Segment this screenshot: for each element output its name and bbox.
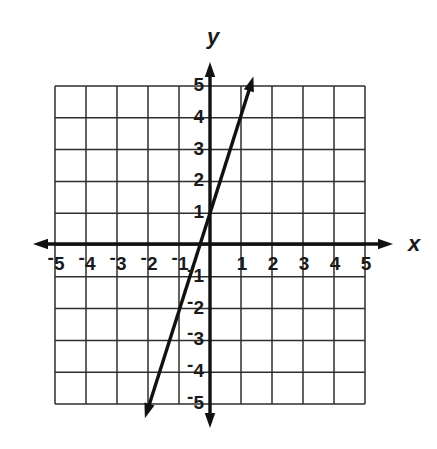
x-tick-label: 1 bbox=[237, 253, 248, 274]
y-tick-label: -2 bbox=[187, 291, 204, 318]
x-tick-label: -4 bbox=[79, 247, 96, 274]
x-tick-label: 2 bbox=[268, 253, 279, 274]
x-axis-arrowhead bbox=[33, 239, 48, 250]
plotted-line-arrowhead bbox=[244, 76, 254, 92]
y-tick-label: -5 bbox=[187, 386, 204, 413]
y-axis-arrowhead bbox=[205, 62, 216, 77]
x-tick-label: -5 bbox=[48, 247, 65, 274]
y-tick-label: 2 bbox=[193, 169, 204, 190]
x-tick-label: 5 bbox=[361, 253, 372, 274]
plotted-line-arrowhead bbox=[144, 402, 154, 418]
x-axis-label: x bbox=[407, 231, 421, 256]
x-tick-label: 4 bbox=[330, 253, 341, 274]
y-tick-label: -4 bbox=[187, 354, 204, 381]
y-axis-label: y bbox=[206, 24, 221, 49]
y-tick-label: 5 bbox=[193, 74, 204, 95]
x-axis-arrowhead bbox=[378, 239, 393, 250]
x-tick-label: -2 bbox=[141, 247, 158, 274]
y-tick-label: -3 bbox=[187, 322, 204, 349]
y-tick-label: 1 bbox=[193, 201, 204, 222]
y-axis-arrowhead bbox=[205, 413, 216, 428]
axes bbox=[33, 62, 393, 428]
graph-figure: -5-4-3-2-11234554321-1-2-3-4-5 x y bbox=[0, 0, 437, 449]
coordinate-plane: -5-4-3-2-11234554321-1-2-3-4-5 x y bbox=[0, 0, 437, 449]
x-tick-label: -3 bbox=[110, 247, 127, 274]
y-tick-label: 3 bbox=[193, 138, 204, 159]
y-tick-label: 4 bbox=[193, 106, 204, 127]
x-tick-label: 3 bbox=[299, 253, 310, 274]
